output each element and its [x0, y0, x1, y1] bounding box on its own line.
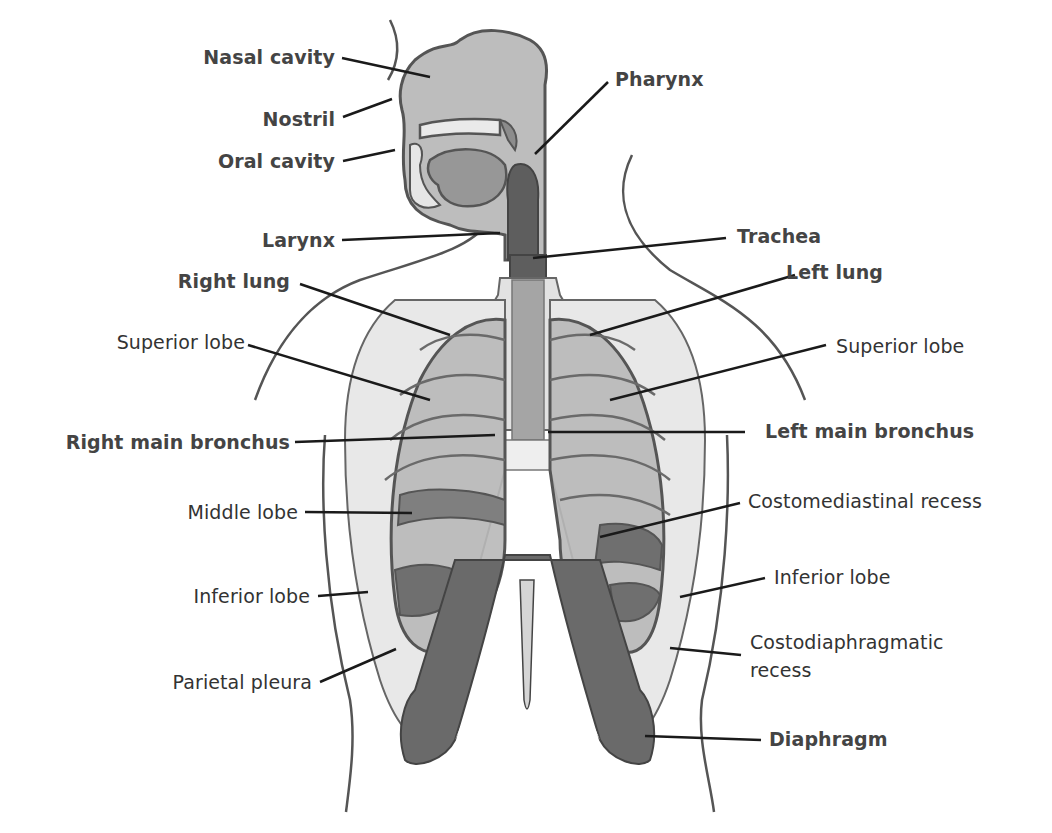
label-inferior-lobe-left: Inferior lobe: [774, 566, 891, 588]
label-superior-lobe-left: Superior lobe: [836, 335, 964, 357]
label-superior-lobe-right: Superior lobe: [40, 331, 245, 353]
label-larynx: Larynx: [150, 229, 335, 251]
label-left-lung: Left lung: [786, 261, 883, 283]
label-costodiaphragmatic-recess: Costodiaphragmatic recess: [750, 628, 920, 684]
label-left-main-bronchus: Left main bronchus: [765, 420, 974, 442]
head-cross-section: [400, 31, 546, 260]
label-inferior-lobe-right: Inferior lobe: [100, 585, 310, 607]
label-nasal-cavity: Nasal cavity: [150, 46, 335, 68]
label-diaphragm: Diaphragm: [769, 728, 888, 750]
label-trachea: Trachea: [737, 225, 821, 247]
label-right-lung: Right lung: [100, 270, 290, 292]
label-nostril: Nostril: [150, 108, 335, 130]
label-oral-cavity: Oral cavity: [150, 150, 335, 172]
respiratory-system-diagram: Nasal cavity Nostril Oral cavity Larynx …: [0, 0, 1052, 833]
label-costomediastinal-recess: Costomediastinal recess: [748, 490, 982, 512]
label-pharynx: Pharynx: [615, 68, 704, 90]
label-right-main-bronchus: Right main bronchus: [0, 431, 290, 453]
label-middle-lobe: Middle lobe: [100, 501, 298, 523]
label-parietal-pleura: Parietal pleura: [90, 671, 312, 693]
